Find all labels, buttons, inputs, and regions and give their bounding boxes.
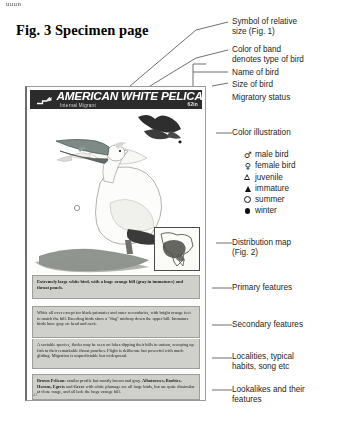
legend-label-female: female bird (255, 161, 296, 172)
legend-row-female: ♀ female bird (240, 161, 296, 172)
figure-root: uuun Fig. 3 Specimen page (0, 0, 342, 424)
flying-pelican-upper (138, 115, 182, 143)
annotation-dist-map: Distribution map (Fig. 2) (232, 238, 291, 258)
migratory-status-text: Internal Migrant (60, 103, 96, 108)
lookalikes-box: Brown Pelican: similar profile but mostl… (32, 374, 200, 400)
annotation-band-color: Color of band denotes type of bird (232, 45, 304, 65)
legend-row-juvenile: juvenile (240, 172, 296, 183)
primary-features-text: Extremely large white bird, with a huge … (37, 279, 183, 290)
legend-row-male: ♂ male bird (240, 150, 296, 161)
lookalikes-lead-text: Brown Pelican (37, 378, 64, 383)
annotation-bird-name: Name of bird (232, 68, 279, 78)
male-symbol-icon: ♂ (240, 150, 255, 161)
secondary-features-box: White all over except for black primarie… (32, 306, 200, 338)
legend-row-winter: winter (240, 206, 296, 217)
habits-box: A sociable species, flocks may be seen o… (32, 339, 200, 369)
lookalikes-bold3-text: Geese (73, 384, 84, 389)
page-title: Fig. 3 Specimen page (16, 22, 149, 39)
lookalikes-rest-text: : similar profile but mostly brown and g… (64, 378, 142, 383)
habits-text: A sociable species, flocks may be seen o… (37, 342, 194, 358)
water-wash (33, 242, 153, 274)
page-number: 42 (33, 392, 38, 397)
specimen-page: AMERICAN WHITE PELICAN Internal Migrant … (25, 86, 206, 401)
summer-circle-outline-icon (240, 195, 255, 206)
annotation-localities: Localities, typical habits, song etc (232, 352, 294, 372)
juvenile-triangle-outline-icon (240, 172, 255, 183)
winter-circle-filled-icon (240, 206, 255, 217)
annotation-relative-size: Symbol of relative size (Fig. 1) (232, 17, 297, 37)
annotation-bird-size: Size of bird (232, 80, 273, 90)
distribution-map (154, 227, 200, 271)
legend-row-summer: summer (240, 195, 296, 206)
legend-label-immature: immature (255, 184, 289, 195)
annotation-lookalikes: Lookalikes and their features (232, 385, 305, 405)
annotation-secondary: Secondary features (232, 320, 303, 330)
legend-label-summer: summer (255, 195, 285, 206)
annotation-primary: Primary features (232, 283, 292, 293)
legend-label-male: male bird (255, 150, 289, 161)
legend-row-immature: immature (240, 184, 296, 195)
immature-triangle-filled-icon (240, 184, 255, 195)
symbol-legend: ♂ male bird ♀ female bird juvenile immat… (240, 150, 296, 217)
bird-name-text: AMERICAN WHITE PELICAN (56, 90, 202, 102)
species-header-band: AMERICAN WHITE PELICAN Internal Migrant … (30, 90, 202, 109)
annotation-illustration: Color illustration (232, 128, 291, 138)
annotation-migratory: Migratory status (232, 93, 290, 103)
legend-label-winter: winter (255, 206, 277, 217)
primary-features-box: Extremely large white bird, with a huge … (32, 275, 200, 299)
legend-label-juvenile: juvenile (255, 173, 283, 184)
female-symbol-icon: ♀ (240, 161, 255, 172)
stray-text: uuun (6, 0, 21, 8)
relative-size-symbol-icon (36, 95, 53, 106)
secondary-features-text: White all over except for black primarie… (37, 310, 191, 326)
bird-size-text: 62in (188, 102, 198, 107)
